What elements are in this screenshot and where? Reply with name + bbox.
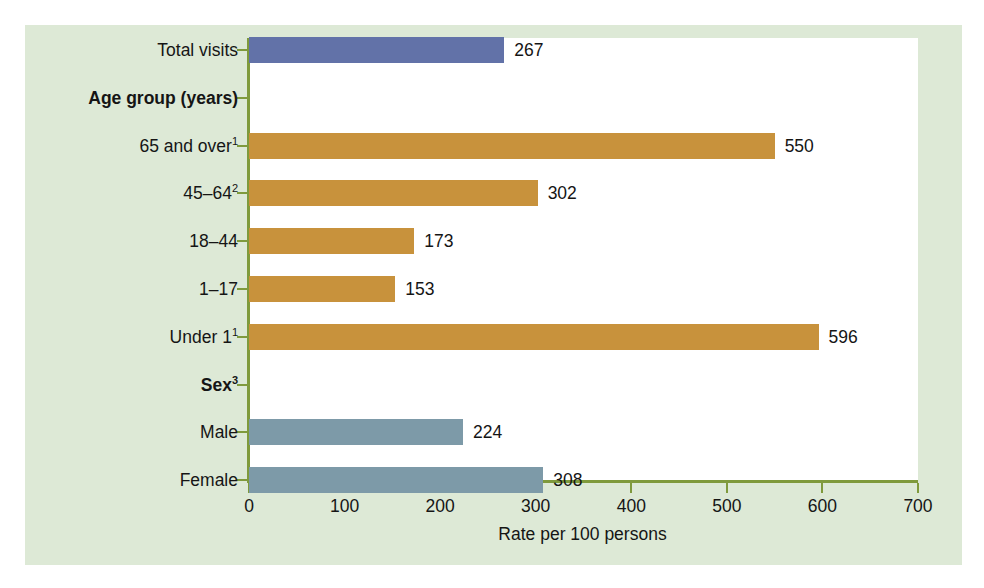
bar-value-label: 267	[514, 41, 543, 59]
y-axis-tick	[237, 240, 248, 242]
bar	[249, 133, 775, 159]
y-axis-tick	[237, 479, 248, 481]
plot-area	[247, 38, 918, 480]
category-label-footnote-marker: 1	[232, 135, 238, 147]
x-axis-tick	[917, 483, 919, 493]
category-label: Female	[180, 471, 238, 489]
bar-value-label: 173	[424, 232, 453, 250]
x-axis-tick-label: 400	[596, 496, 666, 516]
y-axis-line	[247, 38, 250, 483]
bar	[249, 228, 414, 254]
x-axis-tick	[726, 483, 728, 493]
y-axis-tick	[237, 431, 248, 433]
y-axis-tick	[237, 145, 248, 147]
y-axis-tick	[237, 192, 248, 194]
category-label: 45–642	[183, 184, 238, 202]
category-label: Under 11	[170, 328, 238, 346]
y-axis-tick	[237, 288, 248, 290]
category-label: Sex3	[201, 376, 238, 394]
category-label: 1–17	[199, 280, 238, 298]
category-label: Total visits	[157, 41, 238, 59]
bar	[249, 37, 504, 63]
x-axis-tick-label: 0	[214, 496, 284, 516]
bar	[249, 180, 538, 206]
bar-value-label: 550	[785, 137, 814, 155]
y-axis-tick	[237, 49, 248, 51]
y-axis-tick	[237, 97, 248, 99]
y-axis-tick	[237, 384, 248, 386]
category-label-footnote-marker: 2	[232, 183, 238, 195]
x-axis-tick-label: 100	[310, 496, 380, 516]
x-axis-tick-label: 700	[883, 496, 953, 516]
category-label: 65 and over1	[139, 137, 238, 155]
category-label: 18–44	[189, 232, 238, 250]
bar-value-label: 302	[548, 184, 577, 202]
chart-figure: Total visits267Age group (years)65 and o…	[0, 0, 984, 588]
bar-value-label: 308	[553, 471, 582, 489]
x-axis-tick-label: 600	[787, 496, 857, 516]
bar-value-label: 153	[405, 280, 434, 298]
bar-value-label: 224	[473, 423, 502, 441]
category-label: Age group (years)	[88, 89, 238, 107]
bar	[249, 419, 463, 445]
x-axis-tick	[630, 483, 632, 493]
x-axis-tick-label: 500	[692, 496, 762, 516]
category-label-footnote-marker: 3	[232, 374, 238, 386]
category-label-footnote-marker: 1	[232, 326, 238, 338]
x-axis-tick-label: 200	[405, 496, 475, 516]
bar	[249, 324, 819, 350]
x-axis-title: Rate per 100 persons	[247, 524, 918, 544]
bar	[249, 467, 543, 493]
bar	[249, 276, 395, 302]
x-axis-tick	[821, 483, 823, 493]
x-axis-tick-label: 300	[501, 496, 571, 516]
bar-value-label: 596	[829, 328, 858, 346]
category-label: Male	[200, 423, 238, 441]
y-axis-tick	[237, 336, 248, 338]
